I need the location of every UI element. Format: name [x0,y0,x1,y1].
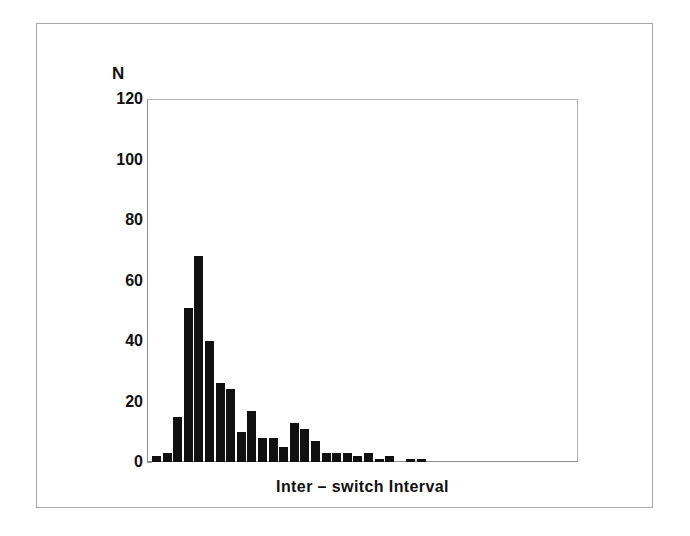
histogram-bar [417,459,426,462]
histogram-bar [279,447,288,462]
histogram-bar [311,441,320,462]
x-axis-title: Inter – switch Interval [147,478,578,496]
y-tick-label: 80 [99,211,143,229]
histogram-bars [147,99,578,462]
histogram-bar [290,423,299,462]
y-tick-label: 0 [99,453,143,471]
histogram-bar [332,453,341,462]
histogram-figure: N 020406080100120 Inter – switch Interva… [0,0,690,536]
histogram-bar [216,383,225,462]
y-tick-label-group: 020406080100120 [95,0,143,536]
y-tick-label: 120 [99,90,143,108]
histogram-bar [375,459,384,462]
y-tick-label: 100 [99,151,143,169]
histogram-bar [269,438,278,462]
histogram-bar [364,453,373,462]
histogram-bar [173,417,182,462]
histogram-bar [163,453,172,462]
histogram-bar [406,459,415,462]
histogram-bar [237,432,246,462]
histogram-bar [353,456,362,462]
histogram-bar [184,308,193,462]
histogram-bar [152,456,161,462]
histogram-bar [300,429,309,462]
histogram-bar [194,256,203,462]
histogram-bar [322,453,331,462]
y-tick-label: 40 [99,332,143,350]
histogram-bar [258,438,267,462]
histogram-bar [226,389,235,462]
y-tick-label: 60 [99,272,143,290]
y-tick-label: 20 [99,393,143,411]
y-tick-mark [147,462,152,463]
histogram-bar [205,341,214,462]
histogram-bar [385,456,394,462]
histogram-bar [343,453,352,462]
histogram-bar [247,411,256,462]
